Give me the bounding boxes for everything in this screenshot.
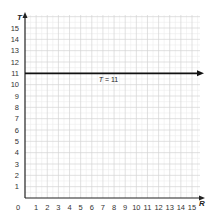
y-tick-label: 5 — [15, 137, 19, 146]
x-tick-label: 12 — [154, 203, 162, 212]
x-tick-label: 9 — [123, 203, 127, 212]
series-line-arrowhead — [197, 70, 204, 76]
y-tick-label: 1 — [15, 182, 19, 191]
grid — [25, 15, 200, 198]
x-tick-label: 5 — [79, 203, 83, 212]
y-axis-label: T — [17, 13, 23, 22]
y-tick-label: 3 — [15, 160, 19, 169]
y-axis-arrowhead — [23, 12, 28, 18]
y-tick-label: 11 — [11, 69, 19, 78]
x-tick-label: 14 — [177, 203, 185, 212]
x-tick-label: 15 — [188, 203, 196, 212]
x-tick-label: 4 — [67, 203, 71, 212]
y-tick-label: 9 — [15, 92, 19, 101]
x-tick-label: 1 — [34, 203, 38, 212]
x-tick-label: 3 — [56, 203, 60, 212]
x-tick-label: 10 — [132, 203, 140, 212]
x-tick-label: 13 — [166, 203, 174, 212]
x-tick-label: 0 — [16, 203, 20, 212]
y-tick-label: 10 — [11, 80, 19, 89]
annotation-value: = 11 — [103, 76, 118, 83]
x-tick-label: 11 — [144, 203, 152, 212]
y-tick-label: 12 — [11, 58, 19, 67]
y-tick-label: 7 — [15, 114, 19, 123]
x-tick-label: 6 — [90, 203, 94, 212]
x-axis-label: R — [199, 199, 205, 208]
y-tick-label: 4 — [15, 148, 19, 157]
y-tick-label: 2 — [15, 171, 19, 180]
x-tick-label: 8 — [112, 203, 116, 212]
y-tick-label: 6 — [15, 126, 19, 135]
y-tick-label: 15 — [11, 24, 19, 33]
line-annotation: T = 11 — [99, 76, 119, 83]
y-tick-label: 13 — [11, 46, 19, 55]
y-tick-label: 14 — [11, 35, 19, 44]
tick-labels: 0123456789101112131415123456789101112131… — [11, 24, 197, 212]
x-tick-label: 2 — [45, 203, 49, 212]
x-tick-label: 7 — [101, 203, 105, 212]
y-tick-label: 8 — [15, 103, 19, 112]
chart: 0123456789101112131415123456789101112131… — [0, 0, 213, 216]
